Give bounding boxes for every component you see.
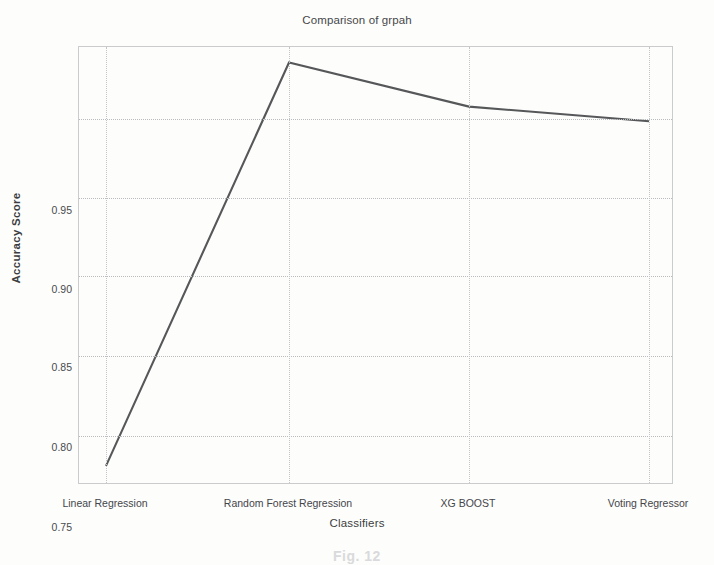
gridline-horizontal-095 (79, 119, 672, 120)
y-tick-label: 0.90 (32, 283, 72, 295)
y-tick-label: 0.80 (32, 441, 72, 453)
gridline-horizontal-075 (79, 436, 672, 437)
y-axis-title: Accuracy Score (10, 138, 22, 338)
plot-area (78, 46, 673, 484)
gridline-vertical-xg-boost (469, 47, 470, 483)
line-accuracy-score (106, 63, 649, 466)
x-tick-label-random-forest-regression: Random Forest Regression (224, 497, 352, 509)
x-tick-label-voting-regressor: Voting Regressor (608, 497, 689, 509)
x-tick-label-linear-regression: Linear Regression (62, 497, 147, 509)
x-axis-tick-labels: Linear Regression Random Forest Regressi… (0, 497, 714, 513)
x-tick-label-xg-boost: XG BOOST (441, 497, 496, 509)
y-tick-label: 0.95 (32, 204, 72, 216)
x-axis-title: Classifiers (0, 517, 714, 529)
gridline-horizontal-085 (79, 276, 672, 277)
gridline-horizontal-090 (79, 198, 672, 199)
gridline-vertical-random-forest-regression (289, 47, 290, 483)
gridline-vertical-linear-regression (106, 47, 107, 483)
gridline-vertical-voting-regressor (649, 47, 650, 483)
y-axis-tick-labels: 0.95 0.90 0.85 0.80 0.75 (26, 46, 72, 484)
figure-caption-ghost: Fig. 12 (0, 548, 714, 564)
gridline-horizontal-080 (79, 356, 672, 357)
chart-title: Comparison of grpah (0, 14, 714, 26)
figure-container: Comparison of grpah Accuracy Score 0.95 … (0, 0, 714, 565)
series-accuracy-score (79, 47, 672, 483)
y-tick-label: 0.85 (32, 361, 72, 373)
